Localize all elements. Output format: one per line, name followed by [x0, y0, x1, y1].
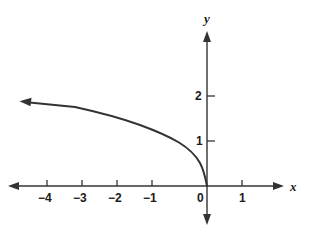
arrow-down-icon	[203, 214, 211, 225]
arrow-up-icon	[203, 31, 211, 42]
x-axis-label: x	[290, 180, 297, 193]
x-tick-label--1: −1	[143, 192, 157, 204]
x-tick-label--2: −2	[108, 192, 122, 204]
y-axis-label: y	[204, 12, 210, 25]
y-axis-ticks	[207, 96, 215, 141]
y-tick-label-1: 1	[196, 135, 203, 147]
graph-figure: −4 −3 −2 −1 0 1 1 2 y x	[0, 0, 319, 227]
x-tick-label-0: 0	[197, 192, 204, 204]
arrow-left-icon	[8, 182, 19, 190]
arrow-right-icon	[273, 182, 284, 190]
x-tick-label--3: −3	[73, 192, 87, 204]
y-tick-label-2: 2	[195, 90, 202, 102]
x-tick-label-1: 1	[239, 192, 246, 204]
x-axis-ticks	[47, 180, 242, 186]
x-tick-label--4: −4	[38, 192, 52, 204]
curve-sqrt-negative-x	[27, 102, 207, 186]
curve-arrow-left-icon	[20, 98, 32, 106]
